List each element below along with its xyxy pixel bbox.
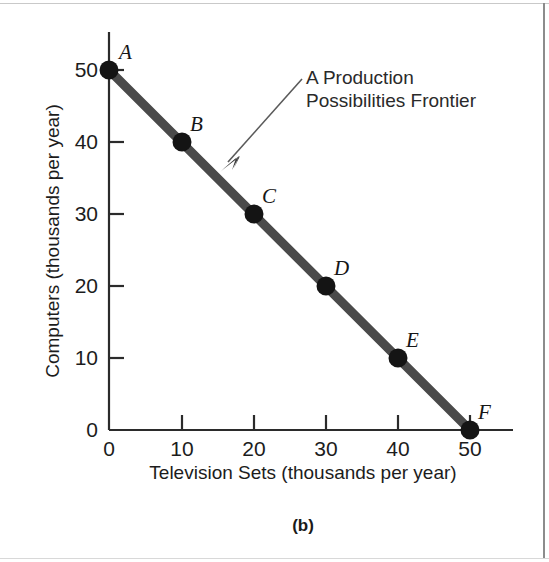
- point-label-a: A: [119, 40, 132, 65]
- ppf-frontier-line: [109, 70, 470, 430]
- frontier-annotation: A Production Possibilities Frontier: [306, 66, 476, 112]
- x-tick-label-40: 40: [375, 437, 421, 461]
- point-label-d: D: [334, 256, 349, 281]
- x-tick-label-50: 50: [447, 437, 493, 461]
- point-label-b: B: [190, 112, 203, 137]
- x-tick-label-20: 20: [231, 437, 277, 461]
- annotation-arrow: [220, 79, 302, 172]
- x-tick-label-0: 0: [86, 437, 132, 461]
- x-axis-ticks: [182, 415, 470, 430]
- figure-caption: (b): [253, 516, 353, 536]
- point-label-c: C: [262, 184, 276, 209]
- y-axis-title: Computers (thousands per year): [42, 76, 64, 406]
- x-axis-title: Television Sets (thousands per year): [103, 462, 503, 484]
- frontier-annotation-line-1: A Production: [306, 66, 476, 89]
- y-axis-ticks: [109, 70, 124, 358]
- data-point-c: [245, 205, 264, 224]
- x-tick-label-30: 30: [303, 437, 349, 461]
- data-point-e: [389, 349, 408, 368]
- data-point-b: [173, 133, 192, 152]
- x-tick-label-10: 10: [159, 437, 205, 461]
- point-label-f: F: [478, 400, 491, 425]
- frontier-annotation-line-2: Possibilities Frontier: [306, 89, 476, 112]
- figure-container: 50 40 30 20 10 0 0 10 20 30 40 50 A B C …: [0, 0, 549, 562]
- point-label-e: E: [406, 328, 419, 353]
- data-point-d: [317, 277, 336, 296]
- data-point-a: [100, 61, 119, 80]
